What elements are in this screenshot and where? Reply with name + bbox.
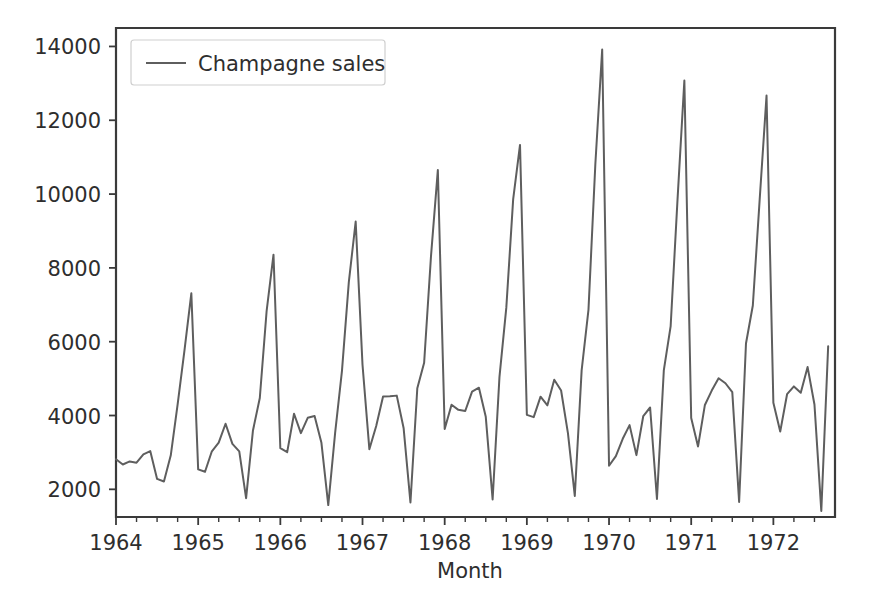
x-tick-label: 1971: [664, 531, 717, 555]
legend-label-champagne-sales: Champagne sales: [198, 52, 385, 76]
x-tick-label: 1972: [747, 531, 800, 555]
x-tick-label: 1965: [171, 531, 224, 555]
line-chart: 2000400060008000100001200014000 19641965…: [0, 0, 869, 608]
chart-figure: 2000400060008000100001200014000 19641965…: [0, 0, 869, 608]
x-tick-label: 1967: [336, 531, 389, 555]
y-tick-label: 2000: [48, 478, 101, 502]
y-tick-label: 6000: [48, 331, 101, 355]
y-tick-label: 8000: [48, 257, 101, 281]
x-tick-label: 1964: [89, 531, 142, 555]
y-tick-label: 4000: [48, 405, 101, 429]
y-tick-label: 10000: [34, 183, 101, 207]
x-tick-label: 1966: [254, 531, 307, 555]
chart-legend: Champagne sales: [131, 40, 385, 85]
x-tick-label: 1970: [582, 531, 635, 555]
x-tick-label: 1969: [500, 531, 553, 555]
x-tick-label: 1968: [418, 531, 471, 555]
x-axis-title: Month: [437, 559, 503, 583]
x-axis-tick-labels: 196419651966196719681969197019711972: [89, 531, 800, 555]
y-tick-label: 12000: [34, 109, 101, 133]
y-tick-label: 14000: [34, 35, 101, 59]
